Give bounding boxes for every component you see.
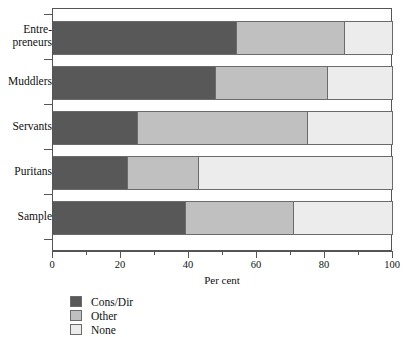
x-axis-tick-minor bbox=[358, 251, 359, 255]
legend-label: None bbox=[91, 324, 116, 336]
x-axis-tick-label: 20 bbox=[100, 259, 140, 270]
x-axis-tick-major bbox=[52, 251, 53, 258]
y-axis-tick bbox=[44, 239, 53, 240]
x-axis-title: Per cent bbox=[52, 274, 392, 286]
category-label-line: Muddlers bbox=[0, 75, 52, 88]
category-label-line: preneurs bbox=[0, 36, 52, 49]
bar-segment-cons-dir bbox=[53, 201, 186, 235]
plot-area bbox=[52, 8, 392, 251]
x-axis-tick-label: 40 bbox=[168, 259, 208, 270]
bar-segment-none bbox=[308, 111, 393, 145]
x-axis-tick-label: 0 bbox=[32, 259, 72, 270]
category-label-puritans: Puritans bbox=[0, 165, 52, 178]
x-axis-tick-major bbox=[256, 251, 257, 258]
x-axis-tick-minor bbox=[86, 251, 87, 255]
x-axis-tick-major bbox=[392, 251, 393, 258]
bar-row bbox=[53, 156, 391, 190]
legend-item: Cons/Dir bbox=[70, 292, 133, 306]
bar-segment-cons-dir bbox=[53, 111, 138, 145]
bar-segment-other bbox=[216, 66, 328, 100]
category-label-servants: Servants bbox=[0, 120, 52, 133]
category-label-line: Entre- bbox=[0, 23, 52, 36]
category-label-line: Sample bbox=[0, 210, 52, 223]
bar-segment-cons-dir bbox=[53, 21, 237, 55]
category-label-entre-preneurs: Entre-preneurs bbox=[0, 23, 52, 49]
bar-segment-none bbox=[345, 21, 393, 55]
y-axis-tick bbox=[44, 14, 53, 15]
x-axis-tick-minor bbox=[154, 251, 155, 255]
x-axis-tick-minor bbox=[222, 251, 223, 255]
bar-segment-cons-dir bbox=[53, 156, 128, 190]
bar-row bbox=[53, 201, 391, 235]
x-axis-tick-major bbox=[324, 251, 325, 258]
bar-segment-other bbox=[186, 201, 295, 235]
bar-segment-none bbox=[328, 66, 393, 100]
bar-segment-none bbox=[294, 201, 393, 235]
legend: Cons/DirOtherNone bbox=[70, 292, 133, 334]
x-axis-tick-major bbox=[188, 251, 189, 258]
bar-segment-other bbox=[138, 111, 308, 145]
category-label-muddlers: Muddlers bbox=[0, 75, 52, 88]
bar-segment-other bbox=[128, 156, 199, 190]
legend-item: None bbox=[70, 320, 133, 334]
x-axis-tick-label: 100 bbox=[372, 259, 405, 270]
bar-segment-cons-dir bbox=[53, 66, 216, 100]
y-axis-tick bbox=[44, 149, 53, 150]
bar-segment-none bbox=[199, 156, 393, 190]
category-label-line: Servants bbox=[0, 120, 52, 133]
bar-row bbox=[53, 66, 391, 100]
y-axis-tick bbox=[44, 59, 53, 60]
bar-segment-other bbox=[237, 21, 346, 55]
bar-row bbox=[53, 111, 391, 145]
legend-swatch-icon bbox=[70, 324, 82, 335]
x-axis-tick-minor bbox=[290, 251, 291, 255]
x-axis-tick-label: 60 bbox=[236, 259, 276, 270]
bar-row bbox=[53, 21, 391, 55]
x-axis-tick-label: 80 bbox=[304, 259, 344, 270]
category-label-sample: Sample bbox=[0, 210, 52, 223]
legend-item: Other bbox=[70, 306, 133, 320]
y-axis-tick bbox=[44, 104, 53, 105]
y-axis-tick bbox=[44, 194, 53, 195]
category-label-line: Puritans bbox=[0, 165, 52, 178]
x-axis-tick-major bbox=[120, 251, 121, 258]
